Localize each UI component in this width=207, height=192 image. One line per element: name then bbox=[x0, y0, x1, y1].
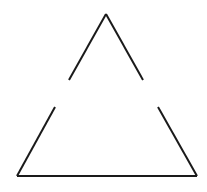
lower-right-edge bbox=[158, 107, 197, 176]
upper-left-edge bbox=[69, 14, 106, 80]
broken-triangle-diagram bbox=[0, 0, 207, 192]
lower-left-edge bbox=[17, 107, 55, 176]
upper-right-edge bbox=[106, 14, 143, 80]
triangle-svg bbox=[0, 0, 207, 192]
